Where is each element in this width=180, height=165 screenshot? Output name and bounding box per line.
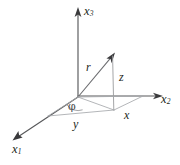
- x-three-axis-label-base: x: [84, 4, 90, 18]
- coordinate-diagram-figure: x3 x2 x1 r z x y φ: [0, 0, 180, 165]
- x-one-axis-label-subscript: 1: [18, 147, 22, 156]
- coordinate-system-drawing: [0, 0, 180, 165]
- x-one-axis-arrowhead: [13, 131, 23, 141]
- x-two-axis-label-subscript: 2: [167, 97, 171, 106]
- x-one-axis-label: x1: [12, 143, 22, 156]
- z-component-line: [113, 56, 114, 110]
- azimuthal-angle-phi-label: φ: [68, 101, 76, 112]
- x-three-axis-label: x3: [84, 5, 94, 18]
- position-vector-r-line: [78, 58, 111, 97]
- position-vector-r-label: r: [86, 61, 91, 73]
- position-vector-r: [78, 53, 115, 98]
- in-plane-radius-line: [78, 97, 114, 110]
- x-one-axis-label-base: x: [12, 142, 18, 156]
- z-component-label: z: [119, 71, 124, 83]
- y-component-label: y: [73, 118, 78, 130]
- x-two-axis-label: x2: [161, 93, 171, 106]
- x-two-axis-label-base: x: [161, 92, 167, 106]
- x-three-axis-label-subscript: 3: [90, 9, 94, 18]
- x-three-axis: [75, 7, 82, 97]
- x-component-label: x: [124, 109, 129, 121]
